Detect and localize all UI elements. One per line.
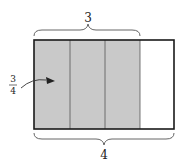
bottom-brace-label: 4: [100, 148, 108, 162]
fraction-numerator: 3: [10, 74, 16, 84]
bottom-brace: [34, 133, 174, 145]
top-brace-label: 3: [84, 11, 92, 25]
fraction-diagram: 3 3 4 4: [0, 0, 184, 164]
part-4-unshaded: [140, 40, 174, 129]
part-3-shaded: [105, 40, 140, 129]
part-2-shaded: [70, 40, 105, 129]
part-1-shaded: [34, 40, 70, 129]
top-brace: [34, 24, 140, 36]
fraction-denominator: 4: [10, 86, 16, 96]
